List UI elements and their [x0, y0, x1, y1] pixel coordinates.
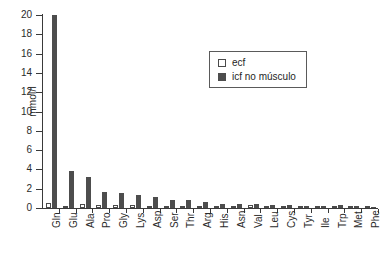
- legend-swatch-open-square-icon: [218, 59, 226, 67]
- bar-group: [196, 14, 213, 208]
- legend-label-icf: icf no músculo: [232, 72, 296, 82]
- bar-group: [314, 14, 331, 208]
- x-axis-tick-label: Val: [254, 214, 264, 228]
- bar-icf: [170, 200, 175, 208]
- bar-ecf: [348, 206, 353, 208]
- bar-ecf: [264, 206, 269, 208]
- y-axis-tick: [36, 15, 42, 16]
- x-axis-tick-label: His: [220, 214, 230, 228]
- bar-icf: [321, 206, 326, 208]
- bar-ecf: [332, 206, 337, 208]
- x-axis-tick-label: Ala: [86, 214, 96, 228]
- x-axis-tick-label: Asp: [153, 211, 163, 228]
- x-axis-tick-label: Leu: [270, 211, 280, 228]
- y-axis-tick-label: 20: [2, 10, 32, 20]
- bar-icf: [86, 177, 91, 208]
- bar-ecf: [248, 205, 253, 208]
- bar-icf: [69, 171, 74, 208]
- y-axis-tick-label: 18: [2, 29, 32, 39]
- bar-group: [95, 14, 112, 208]
- x-axis-tick-label: Trp: [338, 213, 348, 228]
- bar-group: [45, 14, 62, 208]
- y-axis-title: mmol/l: [27, 72, 38, 132]
- bar-icf: [203, 202, 208, 208]
- bar-icf: [254, 204, 259, 208]
- bar-icf: [371, 207, 376, 208]
- x-axis-tick-label: Pro: [102, 212, 112, 228]
- x-axis-tick-label: Thr: [186, 213, 196, 228]
- bar-ecf: [180, 206, 185, 208]
- y-axis-tick: [36, 131, 42, 132]
- y-axis-tick: [36, 92, 42, 93]
- y-axis-tick: [36, 169, 42, 170]
- legend: ecf icf no músculo: [209, 51, 307, 88]
- bar-icf: [304, 206, 309, 208]
- y-axis-tick: [36, 112, 42, 113]
- y-axis-tick-label: 10: [2, 107, 32, 117]
- bar-icf: [237, 204, 242, 208]
- bar-ecf: [130, 205, 135, 208]
- bar-ecf: [315, 206, 320, 208]
- x-axis-tick-label: Lys: [136, 213, 146, 228]
- bar-group: [280, 14, 297, 208]
- bar-group: [179, 14, 196, 208]
- y-axis-tick: [36, 189, 42, 190]
- x-axis-tick-label: Asn: [237, 211, 247, 228]
- y-axis-tick: [36, 34, 42, 35]
- bar-ecf: [281, 206, 286, 208]
- bar-group: [297, 14, 314, 208]
- bar-icf: [354, 206, 359, 208]
- legend-label-ecf: ecf: [232, 58, 245, 68]
- y-axis-tick-label: 12: [2, 87, 32, 97]
- bar-group: [62, 14, 79, 208]
- bar-ecf: [46, 203, 51, 208]
- bar-ecf: [164, 206, 169, 208]
- bar-group: [263, 14, 280, 208]
- y-axis-tick: [36, 150, 42, 151]
- x-axis-tick-label: Tyr: [304, 214, 314, 228]
- bar-group: [331, 14, 348, 208]
- x-axis-tick: [328, 209, 329, 213]
- bar-ecf: [365, 206, 370, 208]
- bar-group: [247, 14, 264, 208]
- bars-layer: [43, 14, 378, 209]
- bar-icf: [220, 204, 225, 208]
- bar-icf: [287, 205, 292, 208]
- bar-icf: [153, 197, 158, 208]
- y-axis-tick-label: 6: [2, 145, 32, 155]
- legend-item-ecf: ecf: [218, 57, 245, 69]
- bar-group: [347, 14, 364, 208]
- bar-ecf: [231, 206, 236, 208]
- x-axis-tick-label: Met: [354, 211, 364, 228]
- y-axis-tick: [36, 54, 42, 55]
- y-axis-tick-label: 4: [2, 164, 32, 174]
- y-axis-tick: [36, 73, 42, 74]
- bar-ecf: [298, 206, 303, 208]
- legend-item-icf: icf no músculo: [218, 71, 296, 83]
- bar-icf: [52, 15, 57, 208]
- bar-chart: mmol/l 02468101214161820 GlnGluAlaProGly…: [0, 0, 388, 257]
- bar-group: [112, 14, 129, 208]
- bar-icf: [270, 205, 275, 208]
- bar-ecf: [80, 204, 85, 208]
- bar-icf: [136, 195, 141, 208]
- y-axis-tick-label: 8: [2, 126, 32, 136]
- x-axis-tick-label: Glu: [69, 212, 79, 228]
- bar-group: [79, 14, 96, 208]
- bar-group: [146, 14, 163, 208]
- x-axis-tick-label: Phe: [371, 210, 381, 228]
- x-axis-tick-label: Cys: [287, 211, 297, 228]
- y-axis-tick-label: 16: [2, 49, 32, 59]
- x-axis-tick-label: Gly: [119, 213, 129, 228]
- x-axis-tick: [227, 209, 228, 213]
- x-axis-tick-label: Gln: [52, 212, 62, 228]
- bar-ecf: [63, 206, 68, 208]
- bar-icf: [186, 200, 191, 208]
- bar-icf: [119, 193, 124, 208]
- y-axis-tick: [36, 208, 42, 209]
- plot-area: 02468101214161820 GlnGluAlaProGlyLysAspS…: [42, 14, 378, 209]
- bar-ecf: [113, 205, 118, 208]
- x-axis-tick: [260, 209, 261, 213]
- y-axis-tick-label: 14: [2, 68, 32, 78]
- x-axis-tick-label: Ser: [170, 212, 180, 228]
